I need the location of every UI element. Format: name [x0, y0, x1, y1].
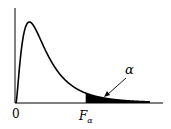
- origin-tick-label: 0: [12, 107, 20, 121]
- alpha-arrow-shaft: [107, 78, 126, 95]
- critical-value-label: Fα: [78, 109, 93, 125]
- alpha-arrow-head: [104, 91, 110, 97]
- f-distribution-diagram: α 0 Fα: [0, 0, 171, 129]
- alpha-label: α: [125, 62, 134, 77]
- critical-value-subscript: α: [87, 116, 93, 125]
